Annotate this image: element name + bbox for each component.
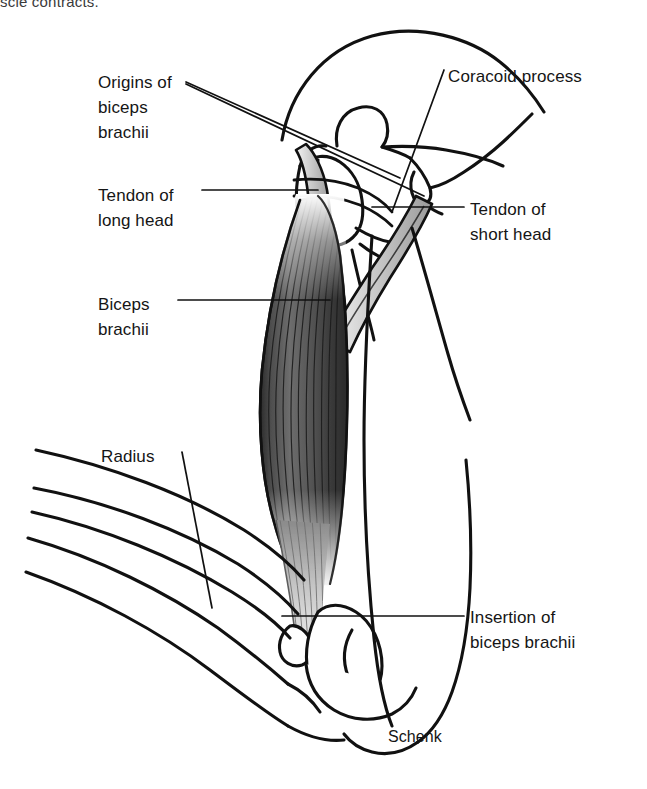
label-tendon-of-long-head: Tendon of long head: [98, 183, 174, 233]
arm-contour-upper-lateral: [412, 228, 470, 420]
leader-origins-upper: [186, 82, 400, 178]
belly-top-fade: [258, 194, 348, 300]
anatomical-figure: scle contracts. Origins of biceps brachi…: [0, 0, 647, 789]
label-tendon-of-short-head: Tendon of short head: [470, 197, 551, 247]
forearm-line-4: [28, 538, 288, 684]
leader-radius: [182, 452, 212, 608]
partial-caption-above: scle contracts.: [0, 0, 300, 10]
label-biceps-brachii: Biceps brachii: [98, 292, 150, 342]
forearm-distal-closure-2: [288, 726, 344, 740]
leader-coracoid: [392, 70, 444, 212]
label-radius: Radius: [101, 444, 155, 469]
label-insertion-of-biceps-brachii: Insertion of biceps brachii: [470, 605, 575, 655]
label-coracoid-process: Coracoid process: [448, 64, 582, 89]
label-origins-of-biceps-brachii: Origins of biceps brachii: [98, 70, 172, 145]
arm-contour-lower-lateral: [418, 460, 471, 742]
forearm-line-3: [32, 512, 290, 638]
acromion-outline: [336, 107, 410, 158]
artist-signature: Schenk: [388, 724, 442, 749]
forearm-line-5: [26, 572, 288, 726]
